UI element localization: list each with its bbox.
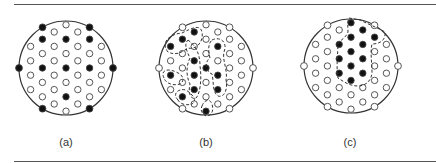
- electrode-inactive: [51, 29, 57, 35]
- electrode-inactive: [39, 50, 45, 56]
- boundary-electrode: [179, 105, 186, 112]
- electrode-inactive: [63, 50, 69, 56]
- electrode-inactive: [324, 48, 330, 54]
- electrode-inactive: [27, 72, 33, 78]
- boundary-electrode: [39, 105, 46, 112]
- electrode-inactive: [371, 63, 377, 69]
- electrode-inactive: [324, 63, 330, 69]
- electrode-inactive: [312, 70, 318, 76]
- boundary-electrode: [371, 103, 378, 110]
- panel-c-electrode-array: [301, 18, 402, 113]
- electrode-active: [348, 20, 354, 26]
- electrode-inactive: [226, 50, 232, 56]
- electrode-active: [348, 48, 354, 54]
- electrode-inactive: [383, 70, 389, 76]
- panel-b-electrode-array: [156, 21, 257, 116]
- electrode-inactive: [226, 79, 232, 85]
- electrode-active: [360, 56, 366, 62]
- electrode-inactive: [75, 72, 81, 78]
- boundary-electrode: [324, 22, 331, 29]
- electrode-active: [86, 36, 92, 42]
- electrode-inactive: [203, 79, 209, 85]
- electrode-inactive: [86, 94, 92, 100]
- electrode-inactive: [51, 72, 57, 78]
- electrode-inactive: [238, 58, 244, 64]
- electrode-inactive: [75, 29, 81, 35]
- electrode-inactive: [75, 101, 81, 107]
- boundary-electrode: [156, 65, 163, 72]
- electrode-inactive: [226, 65, 232, 71]
- electrode-active: [39, 36, 45, 42]
- electrode-inactive: [383, 56, 389, 62]
- electrode-inactive: [203, 22, 209, 28]
- boundary-electrode: [371, 22, 378, 29]
- electrode-active: [191, 29, 197, 35]
- electrode-inactive: [51, 43, 57, 49]
- electrode-inactive: [75, 58, 81, 64]
- electrode-active: [215, 43, 221, 49]
- boundary-electrode: [250, 65, 257, 72]
- electrode-inactive: [238, 86, 244, 92]
- electrode-inactive: [226, 36, 232, 42]
- panel-c-label: (c): [344, 136, 357, 148]
- panel-b-label: (b): [199, 136, 212, 148]
- electrode-inactive: [167, 58, 173, 64]
- electrode-inactive: [238, 43, 244, 49]
- electrode-active: [191, 58, 197, 64]
- electrode-active: [63, 65, 69, 71]
- electrode-inactive: [27, 86, 33, 92]
- electrode-active: [360, 27, 366, 33]
- electrode-active: [360, 41, 366, 47]
- electrode-active: [167, 72, 173, 78]
- panel-a-electrode-array: [16, 21, 117, 115]
- boundary-electrode: [86, 24, 93, 31]
- electrode-inactive: [39, 94, 45, 100]
- electrode-inactive: [371, 48, 377, 54]
- electrode-inactive: [226, 94, 232, 100]
- electrode-inactive: [336, 27, 342, 33]
- electrode-inactive: [27, 58, 33, 64]
- electrode-active: [348, 34, 354, 40]
- electrode-active: [39, 65, 45, 71]
- electrode-inactive: [51, 101, 57, 107]
- electrode-inactive: [336, 84, 342, 90]
- electrode-inactive: [371, 77, 377, 83]
- electrode-active: [203, 108, 209, 114]
- electrode-inactive: [63, 108, 69, 114]
- electrode-inactive: [336, 99, 342, 105]
- electrode-inactive: [360, 99, 366, 105]
- electrode-active: [360, 70, 366, 76]
- electrode-inactive: [63, 22, 69, 28]
- electrode-inactive: [203, 50, 209, 56]
- boundary-electrode: [301, 63, 308, 70]
- electrode-active: [179, 36, 185, 42]
- electrode-active: [191, 72, 197, 78]
- electrode-inactive: [179, 65, 185, 71]
- electrode-active: [215, 86, 221, 92]
- electrode-inactive: [51, 58, 57, 64]
- boundary-electrode: [110, 65, 117, 72]
- electrode-inactive: [98, 43, 104, 49]
- boundary-electrode: [16, 65, 23, 72]
- electrode-inactive: [324, 34, 330, 40]
- boundary-electrode: [395, 63, 402, 70]
- electrode-inactive: [86, 50, 92, 56]
- electrode-inactive: [51, 86, 57, 92]
- electrode-inactive: [203, 94, 209, 100]
- boundary-electrode: [226, 24, 233, 31]
- electrode-active: [179, 94, 185, 100]
- electrode-inactive: [383, 41, 389, 47]
- electrode-active: [63, 36, 69, 42]
- electrode-active: [215, 72, 221, 78]
- electrode-inactive: [215, 29, 221, 35]
- electrode-inactive: [348, 106, 354, 112]
- electrode-inactive: [86, 79, 92, 85]
- electrode-inactive: [98, 58, 104, 64]
- boundary-electrode: [324, 103, 331, 110]
- boundary-electrode: [86, 105, 93, 112]
- electrode-inactive: [238, 72, 244, 78]
- electrode-active: [348, 63, 354, 69]
- electrode-inactive: [203, 36, 209, 42]
- electrode-inactive: [383, 84, 389, 90]
- electrode-inactive: [215, 101, 221, 107]
